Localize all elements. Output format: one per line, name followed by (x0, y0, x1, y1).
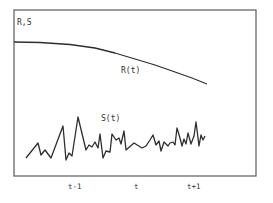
y-axis-label: R,S (17, 18, 32, 27)
plot-frame (14, 10, 256, 176)
x-tick-t-plus-1: t+1 (187, 182, 201, 191)
x-tick-t: t (134, 182, 139, 191)
chart: R,S R(t) S(t) t-1 t t+1 (0, 0, 273, 203)
r-series-line (14, 42, 207, 84)
r-series-label: R(t) (121, 66, 140, 75)
x-tick-t-minus-1: t-1 (68, 182, 82, 191)
s-series-label: S(t) (101, 114, 120, 123)
s-series-line (26, 117, 205, 160)
